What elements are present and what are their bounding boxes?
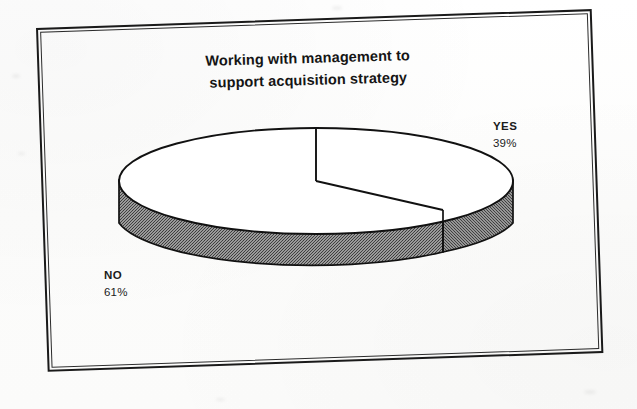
chart-frame [36,9,603,372]
scanned-page: Working with management to support acqui… [0,0,637,409]
scan-artifact [18,152,25,155]
scan-artifact [12,74,20,78]
scan-artifact [584,390,596,394]
scan-artifact [332,6,342,10]
scan-artifact [216,398,225,401]
chart-frame-inner-rule [40,13,599,367]
